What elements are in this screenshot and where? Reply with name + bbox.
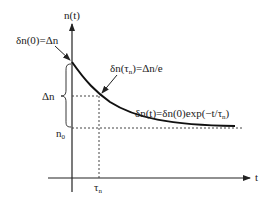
tau-pointer-arrow bbox=[102, 75, 117, 93]
tau-label: τn bbox=[94, 181, 102, 195]
decay-diagram: n(t) t δn(0)=Δn δn(τn)=Δn/e δn(t)=δn(0)e… bbox=[0, 0, 269, 205]
tau-point-label: δn(τn)=Δn/e bbox=[110, 62, 163, 76]
initial-value-label: δn(0)=Δn bbox=[16, 34, 59, 47]
x-axis-label: t bbox=[255, 171, 258, 183]
delta-n-label: Δn bbox=[42, 90, 55, 102]
y-axis-label: n(t) bbox=[64, 9, 80, 22]
delta-n-brace bbox=[61, 64, 71, 127]
n0-label: n0 bbox=[56, 127, 66, 141]
initial-pointer-arrow bbox=[55, 46, 70, 60]
diagram-svg: n(t) t δn(0)=Δn δn(τn)=Δn/e δn(t)=δn(0)e… bbox=[0, 0, 269, 205]
decay-equation: δn(t)=δn(0)exp(−t/τn) bbox=[135, 107, 230, 121]
